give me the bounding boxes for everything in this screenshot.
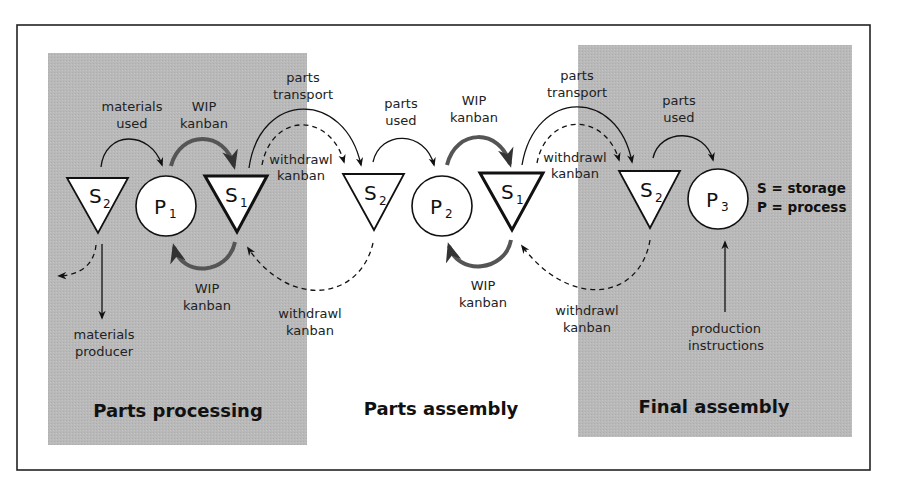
label-materials-producer-a: materials xyxy=(73,327,134,342)
label-withdrawl-kanban-bottom-2b: kanban xyxy=(563,320,611,335)
node-letter: S xyxy=(89,184,102,208)
node-letter: S xyxy=(640,178,653,202)
label-materials-producer-b: producer xyxy=(75,344,134,359)
node-letter: S xyxy=(364,181,377,205)
label-wip-kanban-bottom-1a: WIP xyxy=(195,281,220,296)
label-wip-kanban-bottom-1b: kanban xyxy=(183,298,231,313)
node-letter: S xyxy=(501,180,514,204)
label-parts-used-1a: parts xyxy=(384,96,418,111)
section-title-parts-assembly: Parts assembly xyxy=(364,398,519,419)
label-parts-used-1b: used xyxy=(385,113,416,128)
label-parts-used-2b: used xyxy=(663,110,694,125)
label-parts-transport-2b: transport xyxy=(547,85,607,100)
label-materials-used-1: materials xyxy=(101,99,162,114)
label-wip-kanban-top-2b: kanban xyxy=(450,110,498,125)
label-wip-kanban-top-1b: kanban xyxy=(180,116,228,131)
panel-parts-processing xyxy=(48,53,307,445)
label-materials-used-2: used xyxy=(116,116,147,131)
node-subscript: 2 xyxy=(655,191,663,205)
label-withdrawl-kanban-bottom-1a: withdrawl xyxy=(278,306,341,321)
process-node-p2: P 2 xyxy=(412,176,472,236)
label-withdrawl-kanban-top-1b: kanban xyxy=(277,168,325,183)
label-withdrawl-kanban-bottom-1b: kanban xyxy=(286,323,334,338)
process-node-p3: P 3 xyxy=(688,169,748,229)
label-withdrawl-kanban-top-2a: withdrawl xyxy=(543,150,606,165)
node-subscript: 2 xyxy=(103,197,111,211)
node-subscript: 2 xyxy=(379,194,387,208)
label-wip-kanban-bottom-2a: WIP xyxy=(471,278,496,293)
legend-process: P = process xyxy=(757,199,846,215)
node-subscript: 1 xyxy=(516,193,524,207)
node-letter: P xyxy=(154,195,166,219)
label-withdrawl-kanban-top-1a: withdrawl xyxy=(269,152,332,167)
node-subscript: 2 xyxy=(445,207,453,221)
kanban-diagram: S 2 P 1 S 1 S 2 P 2 S 1 S 2 P 3 xyxy=(0,0,902,485)
label-parts-used-2a: parts xyxy=(662,93,696,108)
label-wip-kanban-top-2a: WIP xyxy=(462,93,487,108)
label-parts-transport-2a: parts xyxy=(560,68,594,83)
label-wip-kanban-top-1a: WIP xyxy=(192,99,217,114)
node-subscript: 1 xyxy=(169,207,177,221)
label-withdrawl-kanban-bottom-2a: withdrawl xyxy=(555,303,618,318)
label-wip-kanban-bottom-2b: kanban xyxy=(459,295,507,310)
legend-storage: S = storage xyxy=(757,180,846,196)
section-title-parts-processing: Parts processing xyxy=(93,400,263,421)
node-letter: P xyxy=(706,188,718,212)
label-production-instructions-a: production xyxy=(691,321,761,336)
process-node-p1: P 1 xyxy=(136,176,196,236)
label-parts-transport-1a: parts xyxy=(286,70,320,85)
node-letter: P xyxy=(430,195,442,219)
section-title-final-assembly: Final assembly xyxy=(638,396,789,417)
label-production-instructions-b: instructions xyxy=(688,338,764,353)
label-parts-transport-1b: transport xyxy=(273,87,333,102)
panel-final-assembly xyxy=(578,45,852,437)
node-letter: S xyxy=(225,183,238,207)
label-withdrawl-kanban-top-2b: kanban xyxy=(551,166,599,181)
node-subscript: 1 xyxy=(240,196,248,210)
node-subscript: 3 xyxy=(721,200,729,214)
